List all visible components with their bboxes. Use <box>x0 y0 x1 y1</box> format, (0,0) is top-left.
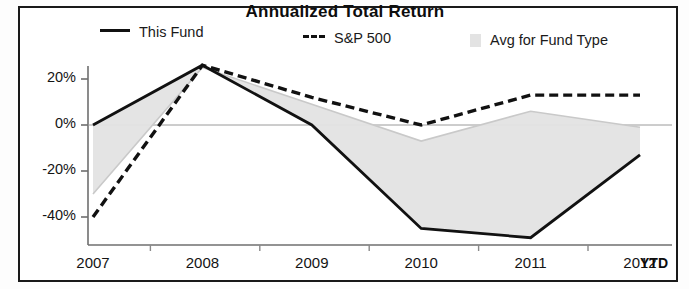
y-axis-tick-label: -40% <box>14 207 76 223</box>
ytd-annotation: YTD <box>640 255 668 271</box>
y-axis-tick-label: 0% <box>14 115 76 131</box>
y-axis-tick-label: -20% <box>14 161 76 177</box>
series-area-avg-fund-type <box>93 65 640 238</box>
x-axis-tick-label: 2010 <box>386 254 456 271</box>
x-axis-tick-label: 2008 <box>167 254 237 271</box>
x-axis-tick-label: 2009 <box>277 254 347 271</box>
chart-plot-area <box>0 0 689 289</box>
y-axis-tick-label: 20% <box>14 69 76 85</box>
x-axis-tick-label: 2007 <box>58 254 128 271</box>
chart-screenshot: Annualized Total Return This Fund S&P 50… <box>0 0 689 289</box>
x-axis-tick-label: 2011 <box>496 254 566 271</box>
